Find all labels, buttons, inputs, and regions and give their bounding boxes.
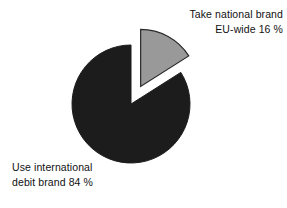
pie-label-international-line-2: debit brand 84 % — [12, 175, 152, 190]
pie-label-use-international-debit-brand: Use international debit brand 84 % — [12, 160, 152, 190]
pie-label-national-line-1: Take national brand — [183, 7, 283, 22]
pie-label-international-line-1: Use international — [12, 160, 152, 175]
pie-chart: Take national brand EU-wide 16 % Use int… — [0, 0, 287, 208]
pie-label-national-line-2: EU-wide 16 % — [183, 22, 283, 37]
pie-label-take-national-brand: Take national brand EU-wide 16 % — [183, 7, 283, 37]
